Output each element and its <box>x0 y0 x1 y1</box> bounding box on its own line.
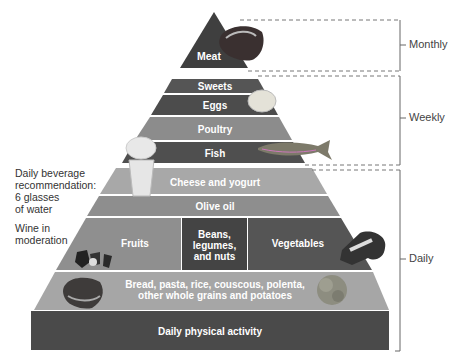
label-beans-line2: legumes, <box>182 240 247 251</box>
label-meat: Meat <box>184 51 234 62</box>
label-beans: Beans, legumes, and nuts <box>182 229 247 262</box>
beverage-note-line1: Daily beverage <box>15 167 96 179</box>
beverage-note: Daily beverage recommendation: 6 glasses… <box>15 167 96 215</box>
frequency-monthly: Monthly <box>409 38 448 50</box>
label-poultry: Poultry <box>165 124 265 135</box>
beverage-note-line2: recommendation: <box>15 179 96 191</box>
label-activity: Daily physical activity <box>110 326 310 337</box>
wine-note-line1: Wine in <box>15 222 68 234</box>
label-fruits: Fruits <box>105 238 165 249</box>
frequency-weekly: Weekly <box>409 111 445 123</box>
label-cheese: Cheese and yogurt <box>145 177 285 188</box>
beverage-note-line3: 6 glasses <box>15 191 96 203</box>
label-eggs: Eggs <box>165 100 265 111</box>
wine-note: Wine in moderation <box>15 222 68 246</box>
label-fish: Fish <box>165 148 265 159</box>
label-olive-oil: Olive oil <box>165 201 265 212</box>
wine-note-line2: moderation <box>15 234 68 246</box>
label-sweets: Sweets <box>165 81 265 92</box>
label-grains-line1: Bread, pasta, rice, couscous, polenta, <box>95 279 335 290</box>
label-beans-line3: and nuts <box>182 251 247 262</box>
label-grains-line2: other whole grains and potatoes <box>95 290 335 301</box>
label-beans-line1: Beans, <box>182 229 247 240</box>
label-grains: Bread, pasta, rice, couscous, polenta, o… <box>95 279 335 301</box>
frequency-daily: Daily <box>409 252 433 264</box>
label-vegetables: Vegetables <box>258 238 338 249</box>
beverage-note-line4: of water <box>15 203 96 215</box>
